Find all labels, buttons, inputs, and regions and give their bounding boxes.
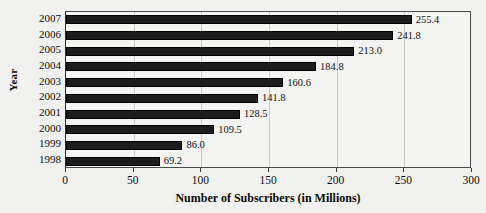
y-axis-tick-label: 2007	[0, 13, 61, 24]
x-axis-tick-mark	[336, 168, 337, 172]
y-axis-tick-label: 2000	[0, 123, 61, 134]
bar	[66, 157, 160, 166]
bar	[66, 110, 240, 119]
x-axis-title: Number of Subscribers (in Millions)	[65, 191, 471, 206]
bar-value-label: 109.5	[218, 125, 242, 135]
x-axis-tick-label: 250	[395, 174, 412, 186]
bar-value-label: 213.0	[358, 46, 382, 56]
x-axis-tick-label: 200	[327, 174, 344, 186]
y-axis-tick-label: 2004	[0, 60, 61, 71]
bar-row: 160.6	[66, 75, 470, 91]
x-axis-ticks: 050100150200250300	[65, 168, 471, 192]
bar-row: 241.8	[66, 28, 470, 44]
bar	[66, 78, 283, 87]
bar	[66, 15, 412, 24]
y-axis-tick-label: 2001	[0, 107, 61, 118]
bars-layer: 255.4241.8213.0184.8160.6141.8128.5109.5…	[66, 12, 470, 167]
x-axis-tick-mark	[200, 168, 201, 172]
y-axis-tick-label: 2002	[0, 91, 61, 102]
y-axis-tick-label: 1998	[0, 154, 61, 165]
x-axis-tick-label: 150	[259, 174, 276, 186]
x-axis-tick-label: 50	[127, 174, 139, 186]
bar	[66, 62, 316, 71]
x-axis-tick-mark	[403, 168, 404, 172]
bar	[66, 125, 214, 134]
y-axis-tick-label: 2005	[0, 44, 61, 55]
x-axis-tick-label: 300	[462, 174, 479, 186]
bar-chart: Year 20072006200520042003200220012000199…	[0, 0, 486, 213]
x-axis-tick-mark	[268, 168, 269, 172]
bar-row: 128.5	[66, 106, 470, 122]
x-axis-tick-mark	[65, 168, 66, 172]
bar-value-label: 241.8	[397, 31, 421, 41]
y-axis-tick-labels: 2007200620052004200320022001200019991998	[0, 11, 61, 168]
y-axis-tick-label: 1999	[0, 138, 61, 149]
bar-value-label: 86.0	[186, 140, 204, 150]
bar-row: 109.5	[66, 122, 470, 138]
x-axis-tick-mark	[133, 168, 134, 172]
bar	[66, 47, 354, 56]
bar-value-label: 141.8	[262, 93, 286, 103]
x-axis-tick-label: 0	[62, 174, 68, 186]
bar-value-label: 128.5	[244, 109, 268, 119]
bar-value-label: 255.4	[416, 15, 440, 25]
bar-value-label: 69.2	[164, 156, 182, 166]
bar	[66, 141, 182, 150]
x-axis-tick-label: 100	[192, 174, 209, 186]
bar-value-label: 184.8	[320, 62, 344, 72]
bar-row: 141.8	[66, 91, 470, 107]
bar-row: 69.2	[66, 153, 470, 169]
bar-row: 86.0	[66, 138, 470, 154]
bar-value-label: 160.6	[287, 78, 311, 88]
y-axis-tick-label: 2003	[0, 76, 61, 87]
bar-row: 213.0	[66, 43, 470, 59]
bar-row: 255.4	[66, 12, 470, 28]
bar-row: 184.8	[66, 59, 470, 75]
bar	[66, 31, 393, 40]
bar	[66, 94, 258, 103]
plot-area: 255.4241.8213.0184.8160.6141.8128.5109.5…	[65, 11, 471, 168]
x-axis-tick-mark	[471, 168, 472, 172]
y-axis-tick-label: 2006	[0, 29, 61, 40]
